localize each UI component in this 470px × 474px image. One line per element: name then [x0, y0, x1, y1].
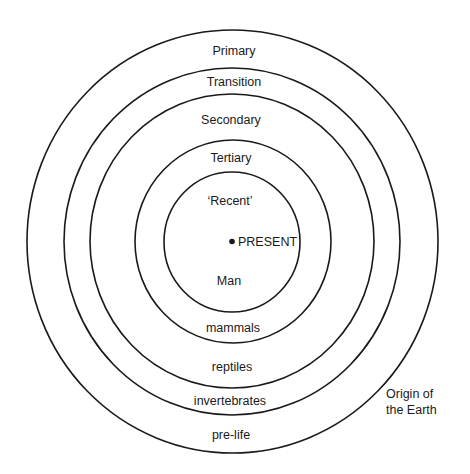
- label-origin-line1: Origin of: [386, 387, 434, 401]
- label-primary: Primary: [212, 44, 256, 58]
- concentric-time-diagram: Primary Transition Secondary Tertiary ‘R…: [0, 0, 470, 474]
- label-pre-life: pre-life: [212, 428, 250, 442]
- label-transition: Transition: [207, 75, 261, 89]
- label-reptiles: reptiles: [212, 360, 252, 374]
- present-dot-icon: [229, 239, 235, 245]
- label-present: PRESENT: [238, 235, 297, 249]
- label-invertebrates: invertebrates: [194, 394, 266, 408]
- label-origin-line2: the Earth: [386, 403, 437, 417]
- label-mammals: mammals: [206, 321, 260, 335]
- label-secondary: Secondary: [201, 113, 262, 127]
- label-recent: ‘Recent’: [207, 194, 252, 208]
- label-man: Man: [217, 274, 241, 288]
- label-tertiary: Tertiary: [211, 151, 253, 165]
